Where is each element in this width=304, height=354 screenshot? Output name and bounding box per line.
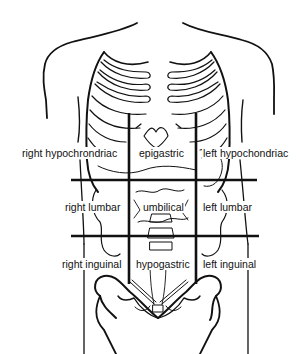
label-left-lumbar: left lumbar	[202, 201, 253, 213]
label-epigastric: epigastric	[138, 147, 185, 159]
label-left-hypochondriac: left hypochondriac	[202, 147, 289, 159]
torso-outline-right-shoulder	[43, 23, 137, 118]
torso-side-right-inner	[78, 97, 80, 142]
label-right-lumbar: right lumbar	[64, 201, 121, 213]
label-right-inguinal: right inguinal	[61, 258, 123, 270]
label-umbilical: umbilical	[142, 201, 185, 213]
colon-left	[202, 190, 227, 256]
pubic-symphysis	[153, 305, 163, 312]
hip-right	[97, 296, 116, 354]
intestine-1	[136, 189, 184, 192]
torso-illustration	[0, 0, 304, 354]
pelvis-outline	[95, 276, 221, 320]
spine	[148, 214, 174, 250]
label-hypogastric: hypogastric	[135, 258, 191, 270]
ribcage-right-outer	[86, 52, 104, 192]
label-right-hypochondriac: right hypochrondriac	[21, 147, 118, 159]
label-left-inguinal: left inguinal	[202, 258, 257, 270]
abdominal-regions-diagram: right hypochrondriac epigastric left hyp…	[0, 0, 304, 354]
xiphoid	[144, 128, 168, 148]
liver-outline	[98, 166, 196, 173]
inguinal-ligament-right	[130, 282, 154, 304]
ribcage-left-outer	[211, 52, 230, 192]
colon-right	[93, 190, 120, 256]
hip-left	[200, 296, 219, 354]
torso-side-left-inner	[241, 100, 243, 142]
